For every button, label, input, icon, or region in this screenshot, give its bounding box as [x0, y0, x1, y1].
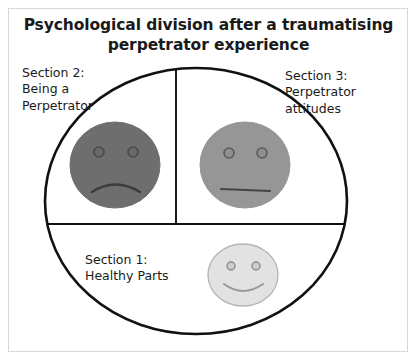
- section2-label: Section 2: Being a Perpetrator: [22, 65, 93, 114]
- section3-face-eye-right-icon: [257, 148, 267, 158]
- psyche-diagram: [0, 0, 417, 361]
- section2-face-head-icon: [70, 122, 160, 208]
- section1-label: Section 1: Healthy Parts: [85, 252, 169, 285]
- section3-face-head-icon: [200, 122, 290, 208]
- section2-face-eye-right-icon: [128, 147, 138, 157]
- section1-face-head-icon: [208, 244, 278, 306]
- section3-label: Section 3: Perpetrator attitudes: [285, 68, 356, 117]
- section1-face: [208, 244, 278, 306]
- section2-face-eye-left-icon: [94, 147, 104, 157]
- section2-face: [70, 122, 160, 208]
- section3-face-eye-left-icon: [224, 148, 234, 158]
- figure-container: Psychological division after a traumatis…: [0, 0, 417, 361]
- section3-face: [200, 122, 290, 208]
- section1-face-eye-right-icon: [252, 262, 260, 270]
- section1-face-eye-left-icon: [227, 262, 235, 270]
